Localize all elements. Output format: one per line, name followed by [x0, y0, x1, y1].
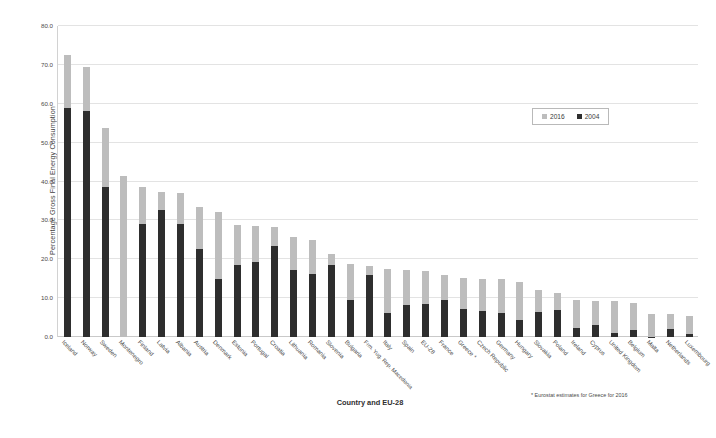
bar-segment-2004[interactable] [196, 249, 203, 337]
bar-group[interactable] [573, 300, 580, 337]
bar-segment-2004[interactable] [252, 262, 259, 337]
bar-segment-2004[interactable] [290, 270, 297, 337]
y-tick-label: 30.0 [41, 216, 53, 223]
bar-segment-2004[interactable] [441, 300, 448, 337]
bar-segment-2004[interactable] [384, 313, 391, 337]
bar-group[interactable] [403, 270, 410, 337]
bar-segment-2004[interactable] [64, 108, 71, 337]
bar-segment-2004[interactable] [139, 224, 146, 338]
bar-group[interactable] [290, 237, 297, 337]
legend-swatch-2016-icon [542, 114, 547, 119]
bar-group[interactable] [441, 275, 448, 337]
bar-group[interactable] [177, 193, 184, 337]
bar-segment-2004[interactable] [516, 320, 523, 337]
bar-segment-2004[interactable] [83, 111, 90, 337]
bar-group[interactable] [366, 266, 373, 337]
bars-container [58, 26, 698, 337]
plot-area: 80.070.060.050.040.030.020.010.00.0 [57, 26, 698, 337]
x-tick-label: Norway [80, 339, 99, 358]
legend-swatch-2004-icon [577, 114, 582, 119]
bar-group[interactable] [630, 303, 637, 337]
legend-item-2004: 2004 [577, 113, 600, 120]
x-tick-label: Croatia [269, 339, 287, 357]
bar-segment-2016[interactable] [611, 301, 618, 337]
bar-group[interactable] [328, 254, 335, 337]
x-tick-label: Poland [551, 339, 568, 356]
bar-segment-2004[interactable] [403, 305, 410, 337]
bar-segment-2004[interactable] [630, 330, 637, 337]
bar-segment-2004[interactable] [554, 310, 561, 337]
chart-legend: 2016 2004 [532, 108, 609, 125]
x-tick-label: Slovenia [325, 339, 346, 360]
bar-group[interactable] [64, 55, 71, 337]
bar-group[interactable] [120, 176, 127, 337]
x-axis-tick-labels: IcelandNorwaySwedenMontenegroFinlandLatv… [57, 339, 698, 434]
bar-segment-2016[interactable] [648, 314, 655, 337]
bar-group[interactable] [422, 271, 429, 337]
bar-segment-2004[interactable] [328, 265, 335, 337]
bar-group[interactable] [516, 282, 523, 337]
bar-segment-2004[interactable] [215, 279, 222, 337]
bar-segment-2004[interactable] [479, 311, 486, 337]
bar-segment-2004[interactable] [177, 224, 184, 337]
x-tick-label: Belgium [627, 339, 647, 359]
bar-group[interactable] [384, 269, 391, 337]
bar-segment-2004[interactable] [686, 334, 693, 337]
bar-segment-2004[interactable] [498, 313, 505, 337]
y-tick-label: 0.0 [44, 333, 53, 340]
bar-group[interactable] [648, 314, 655, 337]
bar-segment-2004[interactable] [271, 246, 278, 337]
legend-label-2016: 2016 [550, 113, 565, 120]
bar-group[interactable] [252, 226, 259, 337]
bar-group[interactable] [686, 316, 693, 337]
bar-segment-2004[interactable] [573, 328, 580, 337]
bar-segment-2004[interactable] [234, 265, 241, 337]
x-tick-label: Bulgaria [344, 339, 364, 359]
legend-label-2004: 2004 [585, 113, 600, 120]
x-tick-label: Cyprus [589, 339, 607, 357]
x-tick-label: Ireland [570, 339, 587, 356]
bar-segment-2004[interactable] [309, 274, 316, 337]
y-tick-label: 60.0 [41, 99, 53, 106]
bar-group[interactable] [234, 225, 241, 337]
bar-segment-2004[interactable] [347, 300, 354, 337]
bar-segment-2004[interactable] [667, 329, 674, 337]
bar-group[interactable] [460, 278, 467, 337]
bar-group[interactable] [83, 67, 90, 337]
bar-group[interactable] [347, 264, 354, 337]
bar-segment-2016[interactable] [120, 176, 127, 337]
y-tick-label: 20.0 [41, 255, 53, 262]
x-tick-label: Portugal [250, 339, 270, 359]
x-tick-label: Lithuania [287, 339, 308, 360]
bar-group[interactable] [139, 187, 146, 337]
bar-segment-2004[interactable] [460, 309, 467, 337]
bar-segment-2004[interactable] [158, 210, 165, 338]
bar-group[interactable] [554, 293, 561, 337]
bar-group[interactable] [611, 301, 618, 337]
bar-group[interactable] [102, 128, 109, 337]
bar-group[interactable] [667, 314, 674, 337]
x-tick-label: Albania [174, 339, 192, 357]
y-tick-label: 10.0 [41, 294, 53, 301]
bar-segment-2004[interactable] [366, 275, 373, 337]
bar-group[interactable] [479, 279, 486, 337]
bar-segment-2004[interactable] [611, 333, 618, 337]
x-tick-label: Malta [646, 339, 661, 354]
bar-segment-2004[interactable] [422, 304, 429, 337]
bar-group[interactable] [592, 301, 599, 337]
y-tick-label: 40.0 [41, 177, 53, 184]
x-tick-label: EU-28 [419, 339, 435, 355]
bar-segment-2004[interactable] [592, 325, 599, 337]
x-tick-label: Slovakia [533, 339, 553, 359]
bar-segment-2004[interactable] [535, 312, 542, 337]
bar-group[interactable] [215, 212, 222, 337]
bar-group[interactable] [196, 207, 203, 337]
bar-group[interactable] [271, 227, 278, 337]
bar-group[interactable] [498, 279, 505, 337]
bar-group[interactable] [158, 192, 165, 337]
legend-item-2016: 2016 [542, 113, 565, 120]
x-tick-label: Hungary [514, 339, 534, 359]
bar-group[interactable] [309, 240, 316, 337]
bar-segment-2004[interactable] [102, 187, 109, 337]
bar-group[interactable] [535, 290, 542, 337]
